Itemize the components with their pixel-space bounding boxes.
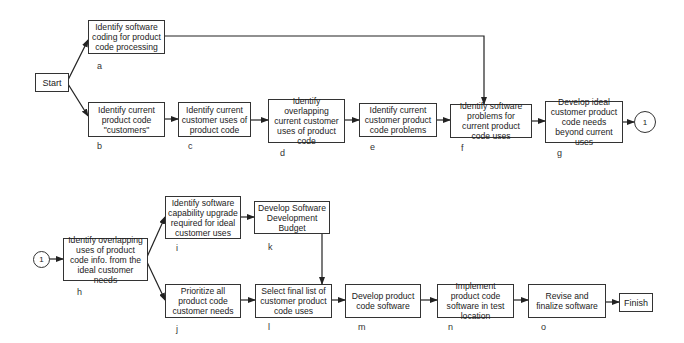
start-node: Start (35, 73, 69, 92)
step-a-label: a (97, 61, 102, 71)
step-j-box: Prioritize all product code customer nee… (165, 284, 241, 318)
step-g-label: g (557, 148, 562, 158)
step-i-label: i (176, 243, 178, 253)
step-o-label: o (541, 322, 546, 332)
step-l-box: Select final list of customer product co… (255, 284, 332, 318)
step-c-label: c (188, 141, 193, 151)
step-e-label: e (370, 142, 375, 152)
finish-node: Finish (619, 293, 653, 312)
step-m-box: Develop product code software (345, 284, 421, 318)
edge-h-j (147, 262, 165, 300)
edge-a-f (164, 36, 484, 104)
step-j-label: j (176, 324, 178, 334)
step-d-label: d (280, 148, 285, 158)
step-e-box: Identify current customer product code p… (359, 103, 437, 137)
edge-start-a (68, 40, 88, 80)
step-h-label: h (77, 287, 82, 297)
step-o-box: Revise and finalize software (528, 284, 606, 318)
step-l-label: l (268, 322, 270, 332)
step-a-box: Identify software coding for product cod… (88, 20, 165, 54)
step-i-box: Identify software capability upgrade req… (165, 196, 241, 239)
step-b-box: Identify current product code "customers… (88, 102, 165, 137)
edge-h-i (147, 217, 165, 257)
connector-1-out: 1 (634, 111, 656, 133)
step-g-box: Develop ideal customer product code need… (545, 101, 623, 143)
step-c-box: Identify current customer uses of produc… (178, 102, 251, 137)
step-n-label: n (448, 322, 453, 332)
step-f-label: f (461, 143, 464, 153)
step-n-box: Implement product code software in test … (437, 284, 514, 318)
step-k-box: Develop Software Development Budget (254, 201, 330, 234)
step-m-label: m (358, 322, 366, 332)
edge-start-b (68, 84, 88, 116)
step-d-box: Identify overlapping current customer us… (268, 99, 345, 143)
step-k-label: k (268, 242, 273, 252)
connector-1-in: 1 (33, 251, 50, 268)
step-b-label: b (97, 141, 102, 151)
step-h-box: Identify overlapping uses of product cod… (63, 238, 148, 281)
step-f-box: Identify software problems for current p… (450, 104, 532, 138)
